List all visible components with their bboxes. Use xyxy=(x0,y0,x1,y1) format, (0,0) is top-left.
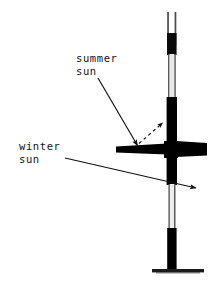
winter-sun-label-line1: winter xyxy=(19,140,61,152)
base-plate xyxy=(152,269,204,272)
winter-sun-label: winter sun xyxy=(19,140,61,165)
crossbar-right-arm xyxy=(176,141,207,157)
crossbar-junction xyxy=(164,141,178,158)
horizontal-crossbar xyxy=(116,141,207,158)
summer-sun-label-line1: summer xyxy=(76,52,118,64)
diagram-canvas: summer sun winter sun xyxy=(0,0,212,285)
summer-sun-label: summer sun xyxy=(76,52,118,77)
sun-angle-diagram: summer sun winter sun xyxy=(0,0,212,285)
post-bottom-dark-segment xyxy=(167,228,176,270)
summer-sun-label-line2: sun xyxy=(76,65,97,77)
post-upper-shaft xyxy=(168,54,176,99)
winter-sun-label-line2: sun xyxy=(19,153,40,165)
crossbar-left-arm xyxy=(116,144,167,155)
summer-sun-ray xyxy=(98,78,138,146)
summer-sun-reflected-ray xyxy=(139,123,163,144)
base-plate-shadow xyxy=(156,272,200,273)
post-upper-collar xyxy=(167,33,177,55)
post-lower-shaft xyxy=(168,184,175,229)
